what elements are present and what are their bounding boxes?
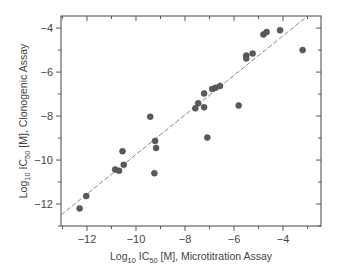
axis-ticks (56, 16, 321, 231)
data-point (217, 83, 223, 89)
data-point (236, 102, 242, 108)
data-point (147, 114, 153, 120)
data-point (277, 27, 283, 33)
data-points (77, 27, 306, 211)
data-point (152, 138, 158, 144)
y-tick-label: −8 (40, 110, 53, 122)
data-point (121, 162, 127, 168)
y-axis-title: Log10 IC50 [M], Clonogenic Assay (17, 43, 32, 198)
data-point (243, 55, 249, 61)
data-point (204, 135, 210, 141)
fit-line (61, 16, 308, 215)
data-point (300, 47, 306, 53)
x-tick-label: −6 (228, 233, 241, 245)
data-point (201, 104, 207, 110)
data-point (201, 90, 207, 96)
data-point (77, 205, 83, 211)
plot-frame (61, 16, 321, 226)
x-tick-label: −4 (277, 233, 290, 245)
data-point (83, 193, 89, 199)
data-point (250, 51, 256, 57)
y-tick-label: −12 (34, 198, 53, 210)
x-tick-label: −8 (179, 233, 192, 245)
x-axis-title: Log10 IC50 [M], Microtitration Assay (110, 250, 273, 265)
scatter-chart: −12−10−8−6−4 −12−10−8−6−4 Log10 IC50 [M]… (0, 0, 337, 276)
regression-line (61, 16, 308, 215)
data-point (116, 168, 122, 174)
plot-border (61, 16, 321, 226)
data-point (153, 145, 159, 151)
y-tick-labels: −12−10−8−6−4 (34, 22, 53, 210)
data-point (264, 29, 270, 35)
data-point (195, 100, 201, 106)
data-point (151, 170, 157, 176)
y-tick-label: −10 (34, 154, 53, 166)
x-tick-labels: −12−10−8−6−4 (78, 233, 290, 245)
y-tick-label: −6 (40, 66, 53, 78)
x-tick-label: −12 (78, 233, 97, 245)
data-point (120, 148, 126, 154)
x-tick-label: −10 (127, 233, 146, 245)
y-tick-label: −4 (40, 22, 53, 34)
